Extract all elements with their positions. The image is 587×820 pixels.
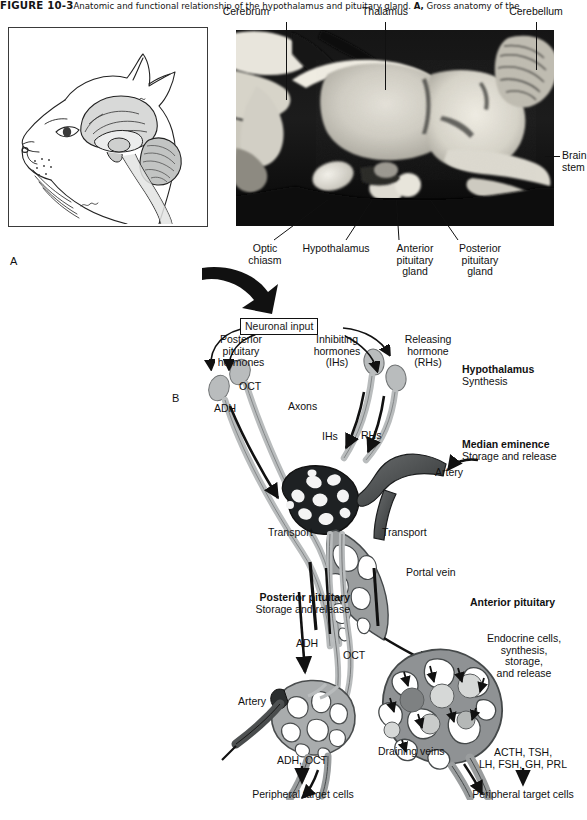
label-endocrine-cells-detail: Endocrine cells, synthesis, storage, and…: [474, 633, 574, 679]
photo-bottom-leader-lines: [236, 200, 554, 246]
callout-hypothalamus: Hypothalamus Synthesis: [462, 364, 534, 387]
label-oct-top: OCT: [239, 381, 261, 393]
label-portal-vein: Portal vein: [406, 567, 456, 579]
photo-label-brain-stem: Brain stem: [562, 150, 586, 173]
panel-a-letter: A: [10, 256, 17, 268]
callout-anterior-pituitary: Anterior pituitary: [470, 597, 555, 609]
photo-label-cerebellum: Cerebellum: [494, 6, 578, 18]
leader-line-cerebellum: [536, 22, 537, 70]
brain-gross-photograph: [236, 30, 554, 226]
label-adh-mid: ADH: [296, 638, 318, 650]
photo-label-anterior-pituitary-gland: Anterior pituitary gland: [384, 243, 446, 278]
output-hormones-anterior: ACTH, TSH, LH, FSH, GH, PRL: [470, 747, 576, 770]
photo-label-thalamus: Thalamus: [347, 6, 423, 18]
photo-label-hypothalamus: Hypothalamus: [290, 243, 382, 255]
figure-number: FIGURE 10-3: [0, 0, 73, 11]
label-adh-top: ADH: [214, 403, 236, 415]
target-cells-posterior: Peripheral target cells: [239, 789, 367, 801]
leader-line-brain-stem: [545, 156, 560, 157]
panel-a-illustration-box: [8, 27, 208, 227]
arrow-to-peripheral-targets-right: [513, 768, 533, 790]
target-cells-anterior: Peripheral target cells: [459, 789, 587, 801]
label-ihs: IHs: [322, 431, 338, 443]
label-posterior-pituitary-hormones: Posterior pituitary hormones: [208, 334, 274, 369]
leader-line-cerebrum: [286, 22, 287, 100]
photo-label-cerebrum: Cerebrum: [208, 6, 284, 18]
arrow-to-peripheral-targets-left: [292, 766, 312, 788]
label-artery-top: Artery: [435, 467, 463, 479]
label-transport-left: Transport: [268, 527, 313, 539]
callout-posterior-pituitary: Posterior pituitary Storage and release: [188, 592, 350, 615]
label-artery-bottom: Artery: [238, 696, 266, 708]
label-oct-mid: OCT: [343, 650, 365, 662]
label-draining-veins: Draining veins: [378, 746, 445, 758]
callout-median-eminence: Median eminence Storage and release: [462, 439, 557, 462]
photo-label-posterior-pituitary-gland: Posterior pituitary gland: [448, 243, 512, 278]
cat-head-line-drawing: [9, 28, 205, 224]
label-releasing-hormones: Releasing hormone (RHs): [397, 334, 459, 369]
output-hormones-posterior: ADH, OCT: [259, 755, 345, 767]
label-rhs: RHs: [361, 430, 381, 442]
label-axons: Axons: [288, 401, 317, 413]
label-inhibiting-hormones: Inhibiting hormones (IHs): [306, 334, 368, 369]
label-transport-right: Transport: [382, 527, 427, 539]
leader-line-thalamus: [385, 22, 386, 90]
